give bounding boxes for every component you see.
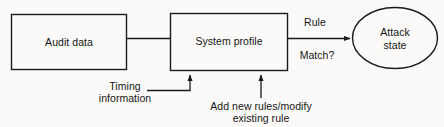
node-audit-data-label: Audit data [45,36,93,48]
node-attack-state-label-line2: state [383,39,406,51]
node-system-profile-label: System profile [195,35,262,47]
node-attack-state-shape [353,8,438,69]
diagram-canvas: Audit data System profile Attack state R… [0,0,444,127]
annotation-add-new-rules-line2: existing rule [233,112,290,124]
edge-timing-to-profile [147,75,190,91]
annotation-add-new-rules-line1: Add new rules/modify [210,100,311,112]
edge-label-match: Match? [300,49,335,61]
node-attack-state-label-line1: Attack [380,26,409,38]
annotation-timing-information-line2: information [99,92,152,104]
edge-label-rule: Rule [304,16,326,28]
annotation-timing-information-line1: Timing [109,80,140,92]
